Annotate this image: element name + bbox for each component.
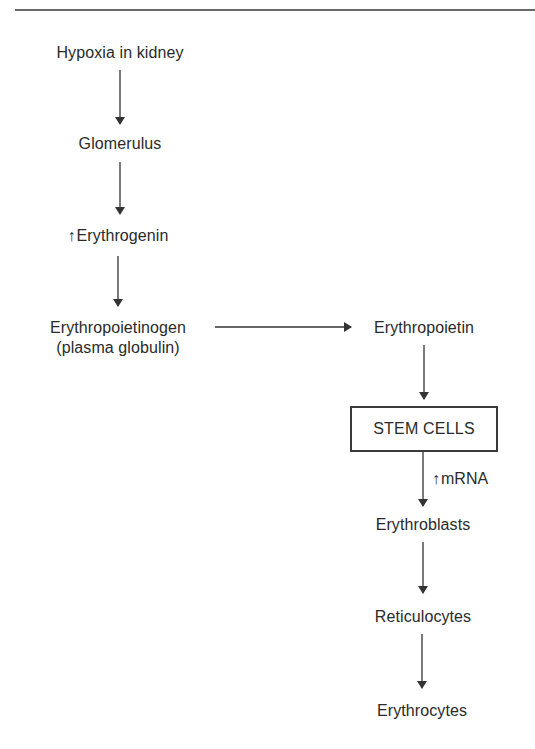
flow-arrows	[0, 0, 535, 749]
node-erythropoietin: Erythropoietin	[374, 318, 474, 338]
node-label: Erythroblasts	[376, 516, 471, 533]
node-label: Erythropoietin	[374, 319, 474, 336]
top-rule-divider	[15, 9, 535, 11]
node-label: Erythrocytes	[377, 702, 467, 719]
node-sublabel: (plasma globulin)	[50, 338, 186, 358]
node-label: Erythropoietinogen	[50, 318, 186, 338]
node-erythrocytes: Erythrocytes	[377, 701, 467, 721]
node-label: Hypoxia in kidney	[56, 44, 183, 61]
node-label: Reticulocytes	[375, 608, 471, 625]
node-hypoxia-in-kidney: Hypoxia in kidney	[56, 43, 183, 63]
edge-label-text: mRNA	[441, 470, 488, 487]
node-glomerulus: Glomerulus	[79, 134, 162, 154]
node-label: STEM CELLS	[373, 420, 475, 438]
increase-arrow-icon: ↑	[432, 470, 440, 487]
edge-label-mrna: ↑mRNA	[432, 469, 488, 489]
node-label: Glomerulus	[79, 135, 162, 152]
node-label: Erythrogenin	[77, 227, 169, 244]
node-reticulocytes: Reticulocytes	[375, 607, 471, 627]
node-erythrogenin: ↑Erythrogenin	[67, 226, 168, 246]
increase-arrow-icon: ↑	[67, 227, 75, 244]
node-erythropoietinogen: Erythropoietinogen (plasma globulin)	[50, 318, 186, 358]
node-stem-cells-box: STEM CELLS	[350, 406, 498, 452]
node-erythroblasts: Erythroblasts	[376, 515, 471, 535]
